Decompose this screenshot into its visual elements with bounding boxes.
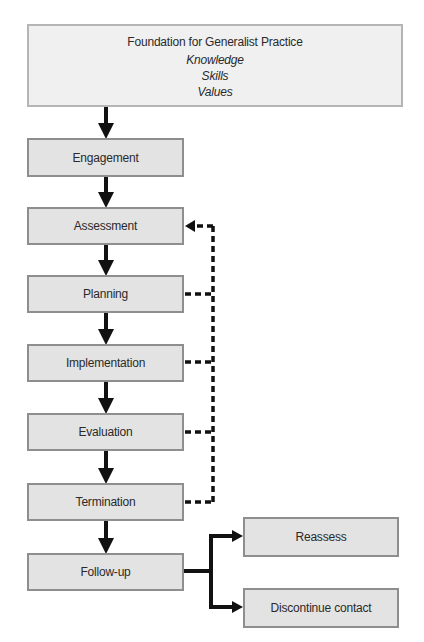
foundation-item-knowledge: Knowledge <box>186 52 244 68</box>
step-termination: Termination <box>27 483 184 521</box>
step-engagement: Engagement <box>27 138 184 177</box>
step-label: Engagement <box>72 151 138 165</box>
step-implementation: Implementation <box>27 344 184 382</box>
step-evaluation: Evaluation <box>27 413 184 451</box>
foundation-item-values: Values <box>197 84 232 100</box>
step-label: Follow-up <box>80 565 130 579</box>
step-planning: Planning <box>27 275 184 313</box>
feedback-loop <box>185 226 213 502</box>
foundation-box: Foundation for Generalist Practice Knowl… <box>27 24 403 107</box>
outcome-reassess: Reassess <box>243 517 399 557</box>
foundation-title: Foundation for Generalist Practice <box>127 35 302 49</box>
foundation-item-skills: Skills <box>202 68 229 84</box>
step-label: Planning <box>83 287 128 301</box>
outcome-label: Discontinue contact <box>271 601 372 615</box>
feedback-arrowhead <box>185 220 195 232</box>
step-label: Assessment <box>74 219 137 233</box>
step-label: Termination <box>76 495 136 509</box>
followup-branch <box>184 536 234 607</box>
arrowhead-reassess <box>232 530 243 542</box>
step-label: Implementation <box>66 356 145 370</box>
outcome-discontinue-contact: Discontinue contact <box>243 588 399 628</box>
step-followup: Follow-up <box>27 553 184 591</box>
outcome-label: Reassess <box>295 530 346 544</box>
arrowhead-discontinue <box>232 601 243 613</box>
step-label: Evaluation <box>78 425 132 439</box>
step-assessment: Assessment <box>27 207 184 245</box>
